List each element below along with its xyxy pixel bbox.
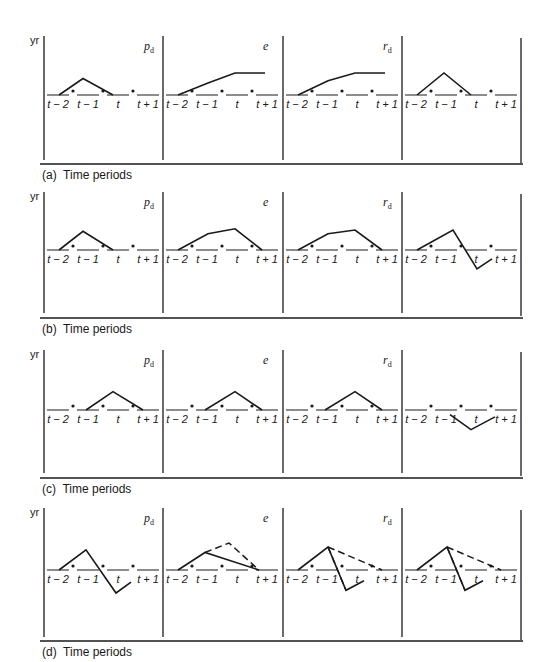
time-label: t − 2 <box>284 253 310 265</box>
response-curve-solid <box>59 231 113 250</box>
period-boundary-dot <box>131 244 134 247</box>
time-label: t − 2 <box>45 253 71 265</box>
variable-label: pd <box>144 353 154 369</box>
time-label: t + 1 <box>254 253 280 265</box>
time-label: t − 1 <box>433 253 459 265</box>
time-label: t − 1 <box>194 413 220 425</box>
time-label: t − 1 <box>194 98 220 110</box>
time-label: t <box>105 98 131 110</box>
variable-label: rd <box>383 39 392 55</box>
period-boundary-dot <box>71 564 74 567</box>
time-label: t − 1 <box>314 253 340 265</box>
y-axis-label: yr <box>30 34 39 46</box>
variable-label: pd <box>144 195 154 211</box>
period-boundary-dot <box>131 564 134 567</box>
time-label: t − 2 <box>403 253 429 265</box>
period-boundary-dot <box>459 404 462 407</box>
variable-label: e <box>263 511 268 526</box>
time-label: t − 1 <box>314 413 340 425</box>
variable-label: pd <box>144 39 154 55</box>
variable-label: rd <box>383 511 392 527</box>
time-label: t − 2 <box>403 98 429 110</box>
time-label: t <box>463 253 489 265</box>
time-label: t <box>463 573 489 585</box>
time-label: t − 1 <box>314 98 340 110</box>
time-label: t − 2 <box>164 573 190 585</box>
period-boundary-dot <box>340 244 343 247</box>
period-boundary-dot <box>131 89 134 92</box>
period-boundary-dot <box>101 404 104 407</box>
period-boundary-dot <box>190 564 193 567</box>
variable-label: rd <box>383 353 392 369</box>
time-label: t <box>463 413 489 425</box>
time-label: t + 1 <box>254 98 280 110</box>
time-label: t − 1 <box>314 573 340 585</box>
time-label: t − 1 <box>75 573 101 585</box>
time-label: t <box>105 573 131 585</box>
y-axis-label: yr <box>30 190 39 202</box>
response-curve-solid <box>59 79 113 96</box>
variable-label: e <box>263 353 268 368</box>
time-label: t + 1 <box>374 573 400 585</box>
period-boundary-dot <box>220 89 223 92</box>
variable-label: e <box>263 39 268 54</box>
time-label: t − 2 <box>45 573 71 585</box>
time-label: t <box>105 413 131 425</box>
period-boundary-dot <box>71 244 74 247</box>
time-label: t − 1 <box>433 98 459 110</box>
time-label: t + 1 <box>135 98 161 110</box>
time-label: t + 1 <box>254 573 280 585</box>
period-boundary-dot <box>370 89 373 92</box>
time-label: t <box>344 573 370 585</box>
variable-label: e <box>263 195 268 210</box>
time-label: t <box>224 253 250 265</box>
response-curve-solid <box>205 392 262 410</box>
time-label: t <box>224 573 250 585</box>
row-caption: (b) Time periods <box>42 322 132 336</box>
period-boundary-dot <box>429 244 432 247</box>
period-boundary-dot <box>370 244 373 247</box>
time-label: t − 1 <box>194 573 220 585</box>
period-boundary-dot <box>489 89 492 92</box>
period-boundary-dot <box>429 404 432 407</box>
time-label: t + 1 <box>135 413 161 425</box>
period-boundary-dot <box>429 564 432 567</box>
time-label: t <box>105 253 131 265</box>
time-label: t − 1 <box>75 98 101 110</box>
time-label: t − 2 <box>284 98 310 110</box>
time-label: t <box>344 413 370 425</box>
period-boundary-dot <box>489 244 492 247</box>
period-boundary-dot <box>71 404 74 407</box>
period-boundary-dot <box>220 404 223 407</box>
response-curve-solid <box>325 392 382 410</box>
time-label: t − 2 <box>45 98 71 110</box>
period-boundary-dot <box>459 564 462 567</box>
time-label: t − 1 <box>194 253 220 265</box>
period-boundary-dot <box>101 564 104 567</box>
time-label: t − 1 <box>75 253 101 265</box>
time-label: t <box>344 253 370 265</box>
row-caption: (d) Time periods <box>42 645 132 659</box>
time-label: t <box>344 98 370 110</box>
time-label: t − 2 <box>284 573 310 585</box>
period-boundary-dot <box>220 564 223 567</box>
period-boundary-dot <box>310 89 313 92</box>
time-label: t + 1 <box>374 253 400 265</box>
time-label: t − 1 <box>75 413 101 425</box>
time-label: t + 1 <box>374 98 400 110</box>
time-label: t − 1 <box>433 413 459 425</box>
time-label: t − 2 <box>403 413 429 425</box>
response-curve-solid <box>178 229 262 250</box>
time-label: t + 1 <box>135 573 161 585</box>
time-label: t + 1 <box>493 413 519 425</box>
time-label: t + 1 <box>135 253 161 265</box>
period-boundary-dot <box>310 244 313 247</box>
variable-label: pd <box>144 511 154 527</box>
response-curve-solid <box>86 392 143 410</box>
period-boundary-dot <box>250 244 253 247</box>
period-boundary-dot <box>250 89 253 92</box>
time-label: t <box>224 98 250 110</box>
time-label: t − 2 <box>284 413 310 425</box>
period-boundary-dot <box>489 404 492 407</box>
period-boundary-dot <box>190 244 193 247</box>
